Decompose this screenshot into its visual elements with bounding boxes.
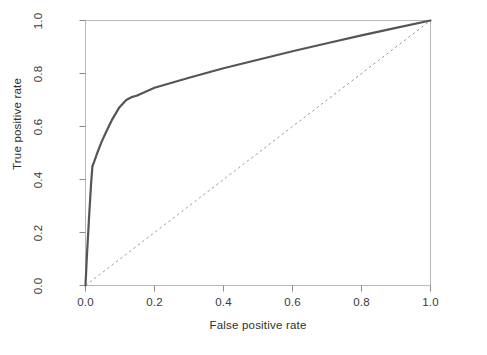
roc-plot-figure: 0.00.20.40.60.81.0 0.00.20.40.60.81.0 Fa…: [0, 0, 487, 355]
x-tick-label: 0.6: [284, 296, 301, 308]
x-axis-title: False positive rate: [209, 319, 306, 331]
chart-background: [0, 0, 487, 355]
x-tick-label: 0.4: [215, 296, 232, 308]
roc-chart-canvas: [0, 0, 487, 355]
x-tick-label: 1.0: [422, 296, 439, 308]
x-tick-label: 0.0: [77, 296, 94, 308]
x-tick-label: 0.8: [353, 296, 370, 308]
y-tick-label: 1.0: [32, 0, 44, 58]
x-tick-label: 0.2: [146, 296, 163, 308]
y-axis-title: True positive rate: [11, 136, 23, 170]
